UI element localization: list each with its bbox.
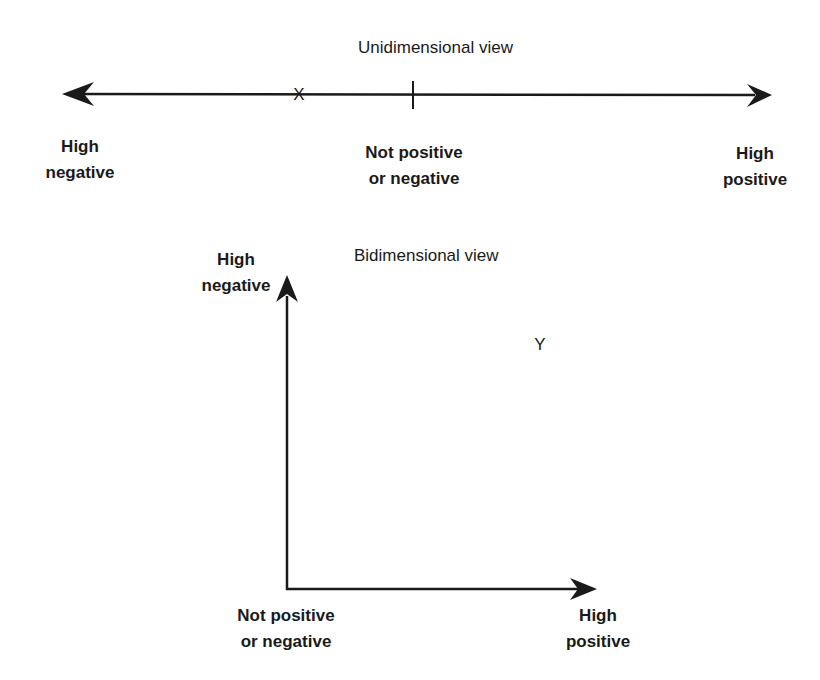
label-line: or negative [221, 629, 351, 655]
label-line: positive [705, 167, 805, 193]
label-line: positive [553, 629, 643, 655]
bidimensional-title: Bidimensional view [354, 243, 499, 269]
label-line: negative [30, 160, 130, 186]
label-line: negative [196, 273, 276, 299]
unidimensional-title: Unidimensional view [358, 35, 513, 61]
label-high-positive: High positive [705, 141, 805, 193]
marker-y: Y [532, 332, 548, 358]
bidimensional-axes [276, 275, 597, 600]
label-line: High [30, 134, 130, 160]
label-line: Not positive [349, 140, 479, 166]
marker-x: X [291, 82, 307, 108]
label-not-positive-or-negative: Not positive or negative [349, 140, 479, 192]
label-line: High [196, 247, 276, 273]
label-line: High [553, 603, 643, 629]
y-axis-label-high-negative: High negative [196, 247, 276, 299]
label-line: Not positive [221, 603, 351, 629]
unidimensional-axis [62, 81, 772, 109]
x-axis-label-high-positive: High positive [553, 603, 643, 655]
label-line: or negative [349, 166, 479, 192]
label-line: High [705, 141, 805, 167]
origin-label-not-positive-or-negative: Not positive or negative [221, 603, 351, 655]
diagram-canvas [0, 0, 820, 680]
label-high-negative: High negative [30, 134, 130, 186]
